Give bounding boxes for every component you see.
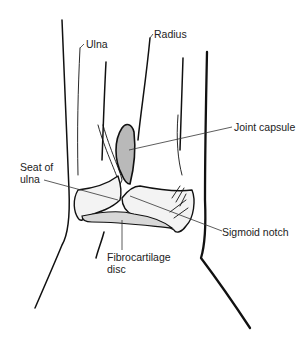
- leader-radius: [150, 34, 153, 38]
- joint-capsule-shape: [116, 125, 135, 184]
- label-ulna: Ulna: [86, 38, 108, 50]
- right-forearm-outline: [201, 52, 250, 328]
- anatomy-diagram: Ulna Radius Joint capsule Seat of ulna S…: [0, 0, 308, 340]
- ulna-shaft-line: [78, 48, 80, 175]
- label-sigmoid-notch: Sigmoid notch: [222, 226, 289, 238]
- radius-inner-line: [180, 58, 183, 150]
- leader-ulna: [80, 44, 84, 48]
- label-fibrocartilage-disc: Fibrocartilage disc: [107, 251, 171, 275]
- label-joint-capsule: Joint capsule: [234, 121, 295, 133]
- lower-left-line: [96, 232, 104, 258]
- ulna-inner-line: [102, 62, 106, 160]
- radius-shaft-line: [138, 38, 150, 140]
- label-radius: Radius: [154, 28, 187, 40]
- label-seat-of-ulna: Seat of ulna: [20, 161, 53, 185]
